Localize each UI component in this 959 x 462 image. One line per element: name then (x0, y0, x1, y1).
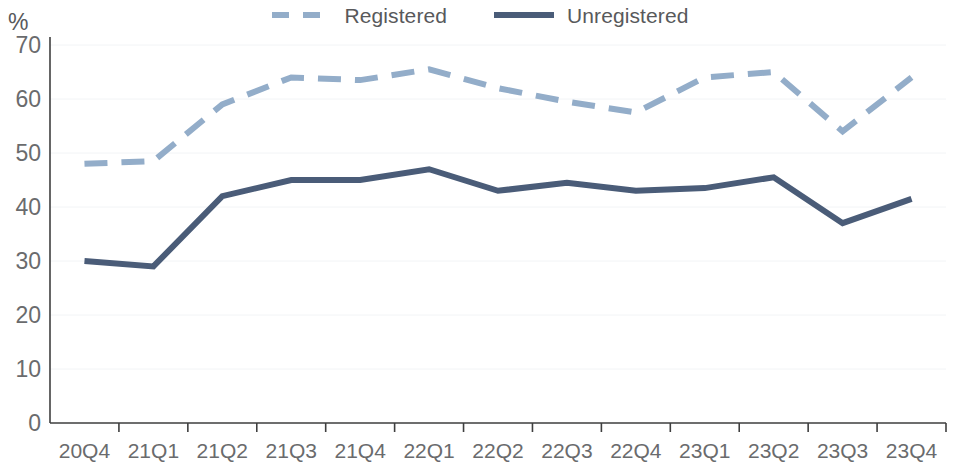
x-axis-tick-marks (119, 423, 946, 432)
series-line-unregistered[interactable] (84, 169, 911, 266)
series-line-registered[interactable] (84, 69, 911, 164)
chart-plot-area (0, 0, 959, 462)
chart-container: Registered Unregistered % 70605040302010… (0, 0, 959, 462)
